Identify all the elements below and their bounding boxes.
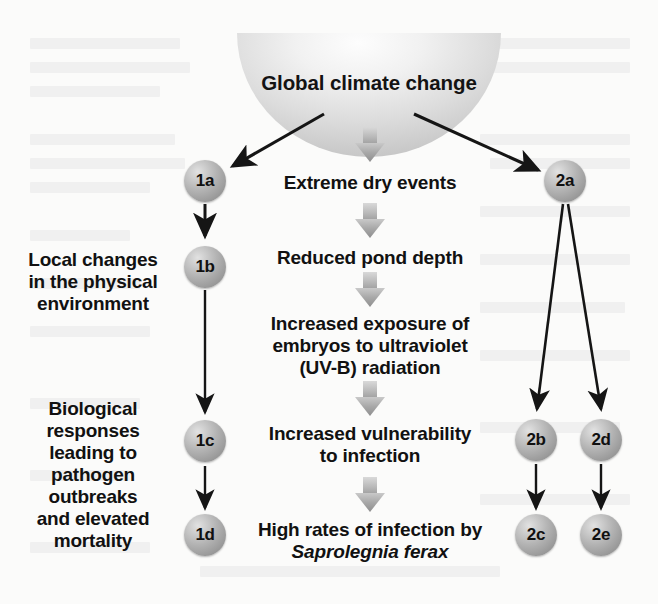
badge-1b: 1b [184, 246, 226, 288]
badge-2d: 2d [580, 419, 622, 461]
step-high-rates-infection: High rates of infection by Saprolegnia f… [228, 519, 512, 563]
step-high-rates-infection-line1: High rates of infection by [228, 519, 512, 541]
badge-2b: 2b [515, 419, 557, 461]
step-reduced-pond-depth-line1: Reduced pond depth [240, 247, 500, 269]
step-increased-uv-exposure: Increased exposure of embryos to ultravi… [232, 313, 508, 379]
badge-2e: 2e [580, 514, 622, 556]
label-biological-responses-line1: Biological [8, 398, 178, 420]
pathogen-species-name: Saprolegnia ferax [228, 541, 512, 563]
label-local-changes: Local changes in the physical environmen… [8, 249, 178, 315]
badge-1c: 1c [184, 420, 226, 462]
label-biological-responses-line3: leading to [8, 442, 178, 464]
arrow-2a-to-2b [537, 204, 563, 409]
arrow-2a-to-2d [568, 204, 601, 409]
block-arrow-dome-to-extreme-dry [355, 127, 385, 161]
label-local-changes-line1: Local changes [8, 249, 178, 271]
step-increased-vulnerability-line2: to infection [232, 445, 508, 467]
label-biological-responses: Biological responses leading to pathogen… [8, 398, 178, 552]
label-local-changes-line3: environment [8, 293, 178, 315]
label-biological-responses-line6: and elevated [8, 508, 178, 530]
label-biological-responses-line2: responses [8, 420, 178, 442]
step-increased-vulnerability-line1: Increased vulnerability [232, 423, 508, 445]
badge-2c: 2c [515, 514, 557, 556]
badge-1a: 1a [184, 160, 226, 202]
block-arrow-uv-exposure-to-vulnerability [355, 381, 385, 415]
block-arrow-pond-depth-to-uv-exposure [355, 272, 385, 306]
label-local-changes-line2: in the physical [8, 271, 178, 293]
step-reduced-pond-depth: Reduced pond depth [240, 247, 500, 269]
label-biological-responses-line7: mortality [8, 530, 178, 552]
step-extreme-dry-events-line1: Extreme dry events [240, 172, 500, 194]
step-increased-uv-exposure-line2: embryos to ultraviolet [232, 335, 508, 357]
dome-title: Global climate change [237, 71, 501, 95]
badge-2a: 2a [544, 160, 586, 202]
block-arrow-vulnerability-to-high-rates [355, 477, 385, 511]
step-extreme-dry-events: Extreme dry events [240, 172, 500, 194]
climate-change-flow-diagram: Global climate change [0, 0, 658, 604]
step-increased-uv-exposure-line3: (UV-B) radiation [232, 357, 508, 379]
badge-1d: 1d [184, 514, 226, 556]
block-arrow-extreme-dry-to-pond-depth [355, 203, 385, 237]
label-biological-responses-line5: outbreaks [8, 486, 178, 508]
label-biological-responses-line4: pathogen [8, 464, 178, 486]
step-increased-vulnerability: Increased vulnerability to infection [232, 423, 508, 467]
step-increased-uv-exposure-line1: Increased exposure of [232, 313, 508, 335]
